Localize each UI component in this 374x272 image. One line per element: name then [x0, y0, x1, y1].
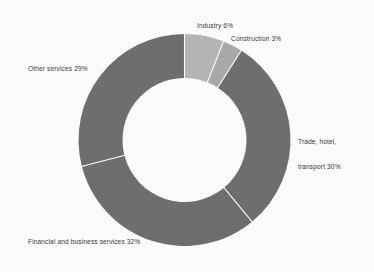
slice-label-industry: Industry 6%: [197, 22, 233, 31]
slice-label-financial-business-services: Financial and business services 32%: [28, 238, 140, 247]
slice-label-trade-line1: Trade, hotel,: [298, 138, 341, 147]
slice-label-trade-hotel-transport: Trade, hotel, transport 30%: [298, 121, 341, 190]
slice-label-other-services: Other services 29%: [28, 65, 88, 74]
donut-chart: Industry 6% Construction 3% Trade, hotel…: [0, 0, 374, 272]
slice-label-trade-line2: transport 30%: [298, 163, 341, 172]
slice-label-construction: Construction 3%: [231, 35, 281, 44]
